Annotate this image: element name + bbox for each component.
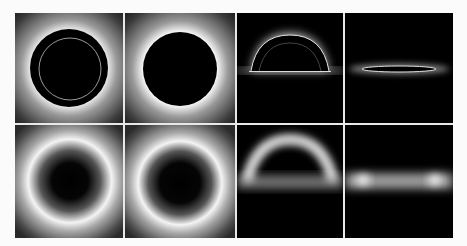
image-grid	[15, 13, 453, 238]
disk-ring-image	[15, 13, 123, 123]
glowing-ring-image	[125, 125, 235, 238]
glowing-band-image	[345, 125, 453, 238]
panel-r2c1-glowing-ring	[15, 125, 123, 238]
disk-image	[125, 13, 235, 123]
panel-r2c2-glowing-ring	[125, 125, 235, 238]
dome-image	[237, 13, 343, 123]
panel-r1c3-dome	[237, 13, 343, 123]
glowing-arc-image	[237, 125, 343, 238]
glowing-ring-image	[15, 125, 123, 238]
panel-r1c1-disk-with-ring	[15, 13, 123, 123]
panel-r2c3-glowing-arc	[237, 125, 343, 238]
panel-r2c4-glowing-band	[345, 125, 453, 238]
panel-r1c2-disk	[125, 13, 235, 123]
panel-r1c4-flat-ellipse	[345, 13, 453, 123]
flat-ellipse-image	[345, 13, 453, 123]
